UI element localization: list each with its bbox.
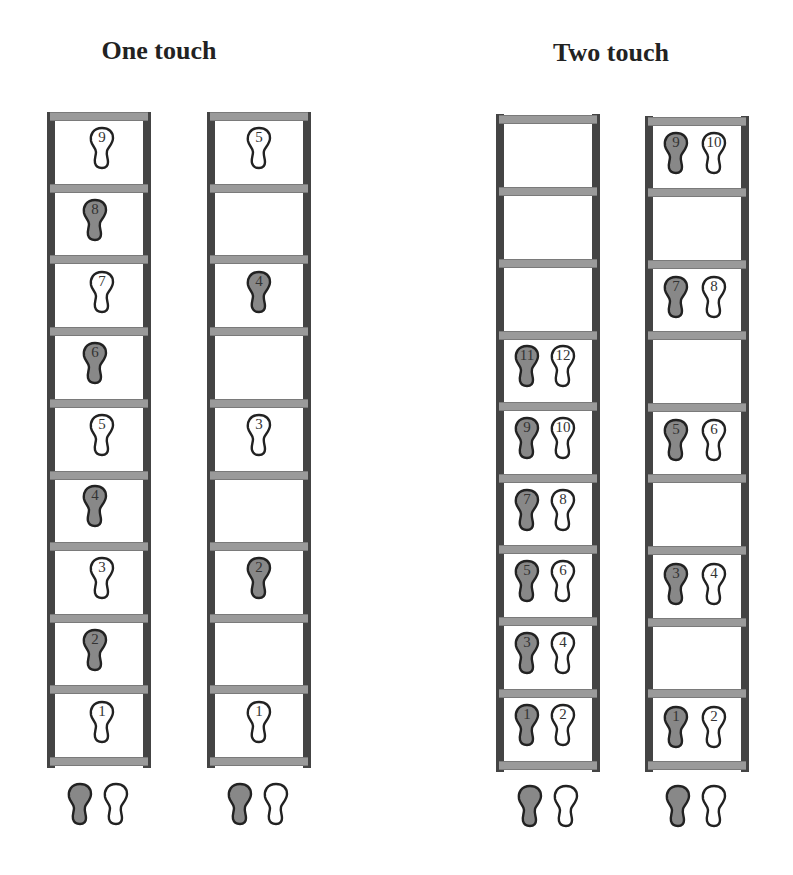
step-number: 3 — [661, 565, 691, 582]
footprint-right-step-12: 12 — [548, 344, 578, 388]
step-number: 3 — [512, 634, 542, 651]
step-number: 6 — [699, 421, 729, 438]
ladder-rung — [648, 260, 746, 269]
footprint-left-step-2: 2 — [244, 556, 274, 600]
ladder-rung — [499, 761, 597, 770]
footprint-left-step-5: 5 — [661, 418, 691, 462]
footprint-left-step-8: 8 — [80, 198, 110, 242]
footprint-right-step-6: 6 — [699, 418, 729, 462]
footprint-left-step-3: 3 — [661, 562, 691, 606]
ladder-rung — [648, 117, 746, 126]
step-number: 6 — [80, 344, 110, 361]
ladder-rung — [210, 255, 308, 264]
footprint-right-step-6: 6 — [548, 559, 578, 603]
footprint-right-step-2: 2 — [548, 703, 578, 747]
footprint-left-step-6: 6 — [80, 341, 110, 385]
ladder-rung — [210, 327, 308, 336]
footprint-right-step-8: 8 — [699, 275, 729, 319]
ladder-rung — [50, 542, 148, 551]
footprint-right-step-7: 7 — [87, 270, 117, 314]
step-number: 5 — [661, 421, 691, 438]
step-number: 1 — [512, 706, 542, 723]
step-number: 1 — [661, 708, 691, 725]
ladder-rail-left — [47, 112, 55, 768]
ladder-rung — [50, 471, 148, 480]
ladder-rung — [499, 617, 597, 626]
footprint-right-step-5: 5 — [244, 126, 274, 170]
ladder-rail-right — [303, 112, 311, 768]
ladder-rung — [50, 327, 148, 336]
title-two-touch: Two touch — [486, 38, 736, 68]
ladder-rung — [648, 403, 746, 412]
footprint-left-step-2: 2 — [80, 628, 110, 672]
footprint-right-step-4: 4 — [699, 562, 729, 606]
step-number: 10 — [548, 419, 578, 436]
step-number: 7 — [661, 278, 691, 295]
footprint-right-step-10: 10 — [548, 416, 578, 460]
ladder-rung — [499, 545, 597, 554]
step-number: 11 — [512, 347, 542, 364]
step-number: 6 — [548, 562, 578, 579]
footprint-left-step-7: 7 — [512, 488, 542, 532]
footprint-left-step-9: 9 — [661, 131, 691, 175]
step-number: 1 — [87, 703, 117, 720]
ladder-rung — [648, 689, 746, 698]
step-number: 4 — [80, 487, 110, 504]
title-one-touch: One touch — [34, 36, 284, 66]
ladder-rung — [210, 757, 308, 766]
step-number: 5 — [244, 129, 274, 146]
start-footprint-right — [101, 782, 131, 826]
ladder-rung — [50, 614, 148, 623]
ladder-rung — [210, 614, 308, 623]
ladder-rung — [499, 474, 597, 483]
footprint-left-step-4: 4 — [80, 484, 110, 528]
start-footprint-left — [225, 782, 255, 826]
ladder-rung — [210, 399, 308, 408]
ladder-rung — [50, 757, 148, 766]
ladder-rung — [648, 331, 746, 340]
start-footprint-left — [515, 784, 545, 828]
ladder-rung — [648, 474, 746, 483]
step-number: 3 — [87, 559, 117, 576]
ladder-rung — [210, 112, 308, 121]
footprint-left-step-9: 9 — [512, 416, 542, 460]
ladder-rung — [50, 255, 148, 264]
footprint-right-step-3: 3 — [244, 413, 274, 457]
footprint-left-step-1: 1 — [512, 703, 542, 747]
footprint-left-step-5: 5 — [512, 559, 542, 603]
step-number: 12 — [548, 347, 578, 364]
ladder-rail-right — [741, 116, 749, 772]
ladder-rung — [210, 542, 308, 551]
step-number: 8 — [80, 201, 110, 218]
ladder-rung — [50, 685, 148, 694]
step-number: 10 — [699, 134, 729, 151]
footprint-right-step-1: 1 — [87, 700, 117, 744]
ladder-rail-left — [496, 114, 504, 772]
footprint-right-step-4: 4 — [548, 631, 578, 675]
ladder-rung — [648, 761, 746, 770]
ladder-rung — [499, 259, 597, 268]
ladder-rail-right — [592, 114, 600, 772]
step-number: 7 — [512, 491, 542, 508]
footprint-left-step-1: 1 — [661, 705, 691, 749]
step-number: 5 — [87, 416, 117, 433]
ladder-rung — [50, 184, 148, 193]
step-number: 9 — [512, 419, 542, 436]
step-number: 5 — [512, 562, 542, 579]
ladder-rung — [648, 546, 746, 555]
ladder-rung — [648, 618, 746, 627]
footprint-left-step-3: 3 — [512, 631, 542, 675]
step-number: 3 — [244, 416, 274, 433]
ladder-rung — [499, 689, 597, 698]
step-number: 9 — [661, 134, 691, 151]
ladder-rail-right — [143, 112, 151, 768]
step-number: 8 — [548, 491, 578, 508]
start-footprint-right — [699, 784, 729, 828]
step-number: 1 — [244, 703, 274, 720]
step-number: 2 — [80, 631, 110, 648]
step-number: 4 — [548, 634, 578, 651]
step-number: 2 — [548, 706, 578, 723]
footprint-right-step-10: 10 — [699, 131, 729, 175]
footprint-right-step-2: 2 — [699, 705, 729, 749]
footprint-right-step-8: 8 — [548, 488, 578, 532]
